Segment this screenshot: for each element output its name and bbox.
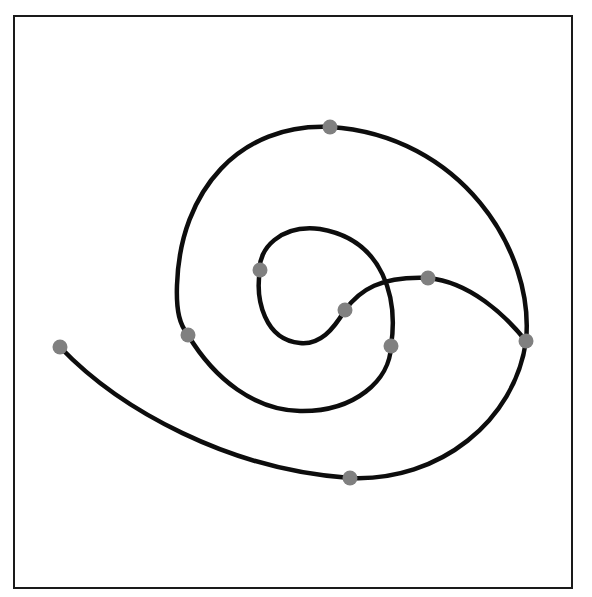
curve-node (253, 263, 268, 278)
curve-node (343, 471, 358, 486)
spiral-curve (60, 127, 527, 478)
curve-node (53, 340, 68, 355)
spiral-diagram (0, 0, 592, 597)
curve-node (421, 271, 436, 286)
curve-node (519, 334, 534, 349)
curve-nodes (53, 120, 534, 486)
curve-node (323, 120, 338, 135)
curve-node (384, 339, 399, 354)
curve-node (338, 303, 353, 318)
curve-node (181, 328, 196, 343)
